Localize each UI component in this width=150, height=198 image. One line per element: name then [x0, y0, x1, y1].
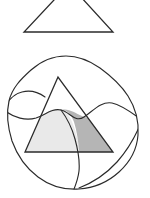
top-triangle — [24, 0, 113, 32]
geometry-figure-svg — [0, 0, 150, 198]
figure-container — [0, 0, 150, 198]
top-triangle-group — [24, 0, 113, 32]
lower-blob-group — [4, 56, 142, 194]
lower-blob-outline — [8, 56, 139, 189]
